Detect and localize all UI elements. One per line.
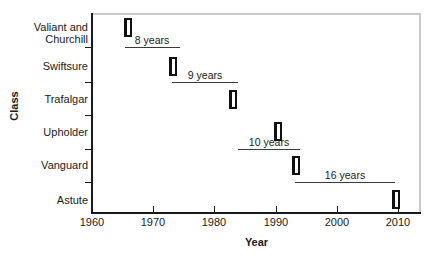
y-axis-tick bbox=[85, 149, 92, 150]
x-axis-label-1980: 1980 bbox=[184, 216, 244, 228]
plot-frame-top bbox=[92, 13, 421, 15]
x-axis-label-1970: 1970 bbox=[123, 216, 183, 228]
y-axis-line bbox=[91, 13, 93, 214]
data-marker-swiftsure[interactable] bbox=[169, 57, 177, 76]
data-marker-vanguard[interactable] bbox=[292, 156, 300, 175]
x-axis-label-2010: 2010 bbox=[368, 216, 428, 228]
data-marker-trafalgar[interactable] bbox=[229, 90, 237, 109]
x-axis-label-1990: 1990 bbox=[246, 216, 306, 228]
y-axis-label-upholder: Upholder bbox=[43, 126, 88, 138]
y-axis-tick bbox=[85, 115, 92, 116]
y-axis-label-vanguard: Vanguard bbox=[41, 159, 88, 171]
y-axis-title: Class bbox=[8, 76, 20, 136]
data-marker-upholder[interactable] bbox=[274, 122, 282, 141]
interval-line-10-years bbox=[238, 149, 300, 150]
y-axis-label-astute: Astute bbox=[57, 194, 88, 206]
interval-line-16-years bbox=[295, 182, 395, 183]
plot-frame-right bbox=[419, 13, 421, 214]
x-axis-tick bbox=[153, 206, 154, 213]
interval-label-10-years: 10 years bbox=[239, 136, 299, 148]
y-axis-tick bbox=[85, 182, 92, 183]
data-marker-valiant-and-churchill[interactable] bbox=[124, 18, 132, 37]
x-axis-tick bbox=[214, 206, 215, 213]
x-axis-tick bbox=[337, 206, 338, 213]
submarine-class-timeline-chart: Valiant and Churchill Swiftsure Trafalga… bbox=[0, 0, 445, 259]
x-axis-line bbox=[91, 212, 421, 214]
interval-label-9-years: 9 years bbox=[175, 69, 235, 81]
x-axis-title: Year bbox=[92, 236, 421, 248]
y-axis-label-valiant-and-churchill: Valiant and Churchill bbox=[34, 21, 88, 45]
y-axis-label-trafalgar: Trafalgar bbox=[44, 93, 88, 105]
y-axis-label-swiftsure: Swiftsure bbox=[43, 60, 88, 72]
data-marker-astute[interactable] bbox=[392, 190, 400, 209]
y-axis-tick bbox=[85, 47, 92, 48]
interval-line-9-years bbox=[172, 82, 238, 83]
interval-line-8-years bbox=[125, 47, 180, 48]
x-axis-tick bbox=[276, 206, 277, 213]
y-axis-tick bbox=[85, 82, 92, 83]
interval-label-16-years: 16 years bbox=[315, 169, 375, 181]
x-axis-label-2000: 2000 bbox=[307, 216, 367, 228]
x-axis-label-1960: 1960 bbox=[62, 216, 122, 228]
x-axis-tick bbox=[92, 206, 93, 213]
